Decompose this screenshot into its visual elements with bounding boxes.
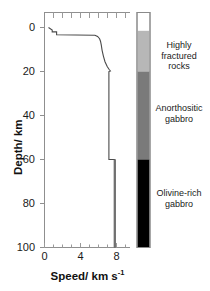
y-tick-label-0: 0 [5,21,35,33]
x-tick-label-0: 0 [35,250,55,262]
legend-label-fractured-line3: rocks [148,61,210,72]
x-axis-title-text: Speed/ km s [51,270,118,282]
y-axis-title: Depth/ km [12,119,24,175]
y-axis-ticks [40,28,45,248]
legend-label-fractured-line2: fractured [148,51,210,62]
legend-label-anorthositic: Anorthositic gabbro [148,103,210,124]
legend-label-anorthositic-line1: Anorthositic [148,103,210,114]
x-tick-label-8: 8 [107,250,127,262]
velocity-profile-curve [49,28,115,248]
x-axis-title: Speed/ km s-1 [0,268,175,282]
y-tick-label-80: 80 [5,197,35,209]
legend-label-olivine-line1: Olivine-rich [148,188,210,199]
axis-frame [45,12,131,248]
x-axis-top-ticks [54,13,126,19]
x-axis-ticks [45,243,126,248]
legend-label-olivine: Olivine-rich gabbro [148,188,210,209]
legend-label-fractured-line1: Highly [148,40,210,51]
x-tick-label-4: 4 [71,250,91,262]
legend-label-anorthositic-line2: gabbro [148,114,210,125]
y-tick-label-100: 100 [5,241,35,253]
legend-label-olivine-line2: gabbro [148,199,210,210]
y-tick-label-20: 20 [5,65,35,77]
x-axis-title-superscript: -1 [118,268,125,277]
legend-label-fractured: Highly fractured rocks [148,40,210,72]
